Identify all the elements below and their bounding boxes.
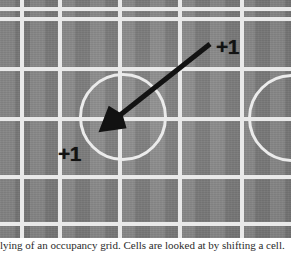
pitch-figure: +1 +1 [0, 0, 291, 238]
figure-page: +1 +1 lying of an occupancy grid. Cells … [0, 0, 291, 257]
figure-caption-text: lying of an occupancy grid. Cells are lo… [0, 240, 291, 253]
plus-one-source-label: +1 [216, 36, 239, 57]
arrow-shaft [114, 44, 210, 120]
displacement-arrow [0, 0, 291, 238]
figure-caption: lying of an occupancy grid. Cells are lo… [0, 240, 291, 257]
arrow-head [100, 107, 125, 131]
plus-one-target-label: +1 [58, 143, 81, 164]
